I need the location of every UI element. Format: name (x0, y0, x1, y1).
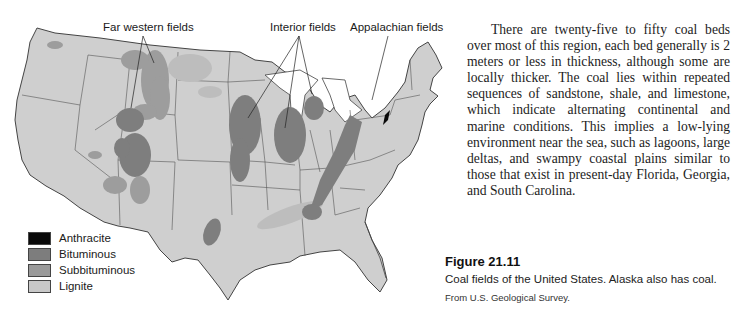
legend-item-subbituminous: Subbituminous (28, 262, 135, 278)
body-paragraph: There are twenty-five to fifty coal beds… (467, 22, 730, 199)
callout-far-western-fields: Far western fields (103, 21, 194, 33)
legend-label: Subbituminous (59, 264, 135, 276)
legend-item-bituminous: Bituminous (28, 246, 135, 262)
figure-caption: Coal fields of the United States. Alaska… (445, 273, 717, 285)
legend-label: Lignite (59, 280, 93, 292)
lignite-swatch (28, 280, 51, 293)
legend-label: Bituminous (59, 248, 116, 260)
legend-label: Anthracite (59, 232, 111, 244)
subbituminous-swatch (28, 264, 51, 277)
legend-item-anthracite: Anthracite (28, 230, 135, 246)
map-legend: Anthracite Bituminous Subbituminous Lign… (28, 230, 135, 294)
legend-item-lignite: Lignite (28, 278, 135, 294)
figure-number: Figure 21.11 (445, 254, 520, 269)
callout-interior-fields: Interior fields (270, 21, 336, 33)
anthracite-swatch (28, 232, 51, 245)
figure-source: From U.S. Geological Survey. (445, 292, 570, 303)
callout-appalachian-fields: Appalachian fields (350, 21, 443, 33)
coal-fields-map: Far western fields Interior fields Appal… (0, 0, 460, 321)
bituminous-swatch (28, 248, 51, 261)
